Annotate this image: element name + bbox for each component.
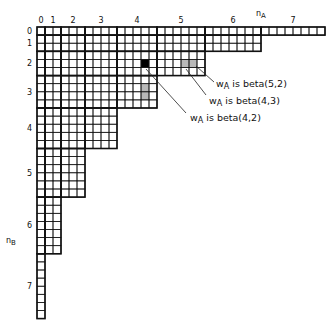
grid-cell (37, 165, 45, 173)
grid-cell (37, 278, 45, 286)
grid-cell (69, 116, 77, 124)
grid-cell (109, 68, 117, 76)
grid-cell (101, 76, 109, 84)
grid-cell (141, 43, 149, 51)
grid-cell (125, 76, 133, 84)
grid-cell (221, 35, 229, 43)
grid-cell (77, 68, 85, 76)
grid-cell (37, 35, 45, 43)
grid-cell (125, 92, 133, 100)
leader-line-beta-4-3 (186, 69, 206, 95)
grid-cell (37, 189, 45, 197)
grid-cell (93, 132, 101, 140)
grid-cell (101, 100, 109, 108)
grid-cell (125, 43, 133, 51)
grid-cell (69, 149, 77, 157)
grid-cell (117, 51, 125, 59)
grid-cell (77, 181, 85, 189)
grid-cell (133, 43, 141, 51)
grid-cell (61, 157, 69, 165)
grid-cell (37, 254, 45, 262)
y-tick-label: 1 (27, 39, 32, 48)
grid-cell (205, 35, 213, 43)
grid-cell (85, 68, 93, 76)
grid-cell (61, 43, 69, 51)
grid-cell (85, 59, 93, 67)
grid-cell (125, 51, 133, 59)
grid-cell (93, 84, 101, 92)
grid-block (37, 51, 45, 75)
grid-cell (157, 59, 165, 67)
grid-cell (37, 262, 45, 270)
grid-cell (37, 221, 45, 229)
grid-cell (85, 100, 93, 108)
grid-cell (77, 157, 85, 165)
grid-cell (181, 27, 189, 35)
grid-cell (77, 84, 85, 92)
grid-cell (245, 35, 253, 43)
grid-cell (141, 35, 149, 43)
grid-cell (301, 27, 309, 35)
x-tick-label: 3 (99, 16, 104, 25)
grid-cell (61, 149, 69, 157)
grid-cell (93, 124, 101, 132)
grid-cell (117, 92, 125, 100)
grid-cell (93, 92, 101, 100)
grid-cell (173, 27, 181, 35)
grid-cell (53, 68, 61, 76)
grid-cell (229, 43, 237, 51)
grid-cell (77, 116, 85, 124)
grid-cell (53, 181, 61, 189)
grid-cell (149, 59, 157, 67)
grid-cell (69, 173, 77, 181)
grid-cell (61, 92, 69, 100)
grid-cell (101, 27, 109, 35)
grid-cell (101, 84, 109, 92)
grid-block (61, 51, 85, 75)
grid-cell (37, 68, 45, 76)
grid-cell (173, 51, 181, 59)
grid-cell (109, 51, 117, 59)
grid-cell (213, 27, 221, 35)
grid-cell (53, 149, 61, 157)
grid-cell (149, 92, 157, 100)
grid-cell (69, 140, 77, 148)
grid-cell (93, 68, 101, 76)
grid-cell (101, 116, 109, 124)
grid-cell (197, 51, 205, 59)
grid-cell (77, 149, 85, 157)
grid-cell (37, 302, 45, 310)
grid-cell (37, 205, 45, 213)
grid-cell (189, 35, 197, 43)
grid-cell (53, 108, 61, 116)
grid-cell (101, 140, 109, 148)
grid-cell (69, 59, 77, 67)
grid-cell (77, 165, 85, 173)
annotation-beta-5-2: wA is beta(5,2) (216, 78, 287, 91)
grid-cell (133, 51, 141, 59)
grid-cell (69, 165, 77, 173)
grid-cell (85, 35, 93, 43)
grid-cell (229, 35, 237, 43)
grid-cell (117, 59, 125, 67)
grid-cell (85, 140, 93, 148)
grid-cell (293, 27, 301, 35)
grid-cell (149, 43, 157, 51)
grid-cell (45, 181, 53, 189)
grid-cell (77, 132, 85, 140)
grid-cell (141, 76, 149, 84)
grid-cell (45, 76, 53, 84)
grid-cell (37, 286, 45, 294)
grid-block (37, 27, 45, 35)
grid-cell (181, 43, 189, 51)
grid-cell (109, 59, 117, 67)
grid-cell (53, 165, 61, 173)
grid-cell (69, 84, 77, 92)
grid-cell (53, 100, 61, 108)
selected-cell (141, 59, 149, 67)
grid-cell (53, 59, 61, 67)
grid-cell (45, 27, 53, 35)
grid-cell (85, 27, 93, 35)
grid-cell (53, 51, 61, 59)
grid-cell (109, 43, 117, 51)
